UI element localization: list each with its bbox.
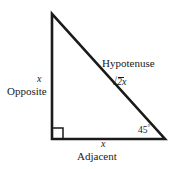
opposite-side-variable: x	[37, 74, 41, 84]
hypotenuse-label: Hypotenuse	[102, 58, 155, 69]
triangle-outline	[52, 14, 165, 139]
adjacent-side-variable: x	[101, 139, 105, 149]
triangle-diagram: x Opposite x Adjacent Hypotenuse √2x 45°	[0, 0, 172, 169]
angle-label: 45°	[138, 124, 150, 136]
square-root-expression: √2x	[111, 76, 127, 87]
degree-symbol-icon: °	[148, 123, 151, 131]
opposite-side-label: Opposite	[7, 86, 47, 97]
hypotenuse-variable: x	[122, 76, 126, 87]
hypotenuse-length-expression: √2x	[111, 72, 127, 88]
radical-vinculum-icon	[118, 77, 124, 78]
adjacent-side-label: Adjacent	[77, 151, 117, 162]
angle-value: 45	[138, 125, 148, 135]
right-angle-marker-icon	[52, 128, 63, 139]
